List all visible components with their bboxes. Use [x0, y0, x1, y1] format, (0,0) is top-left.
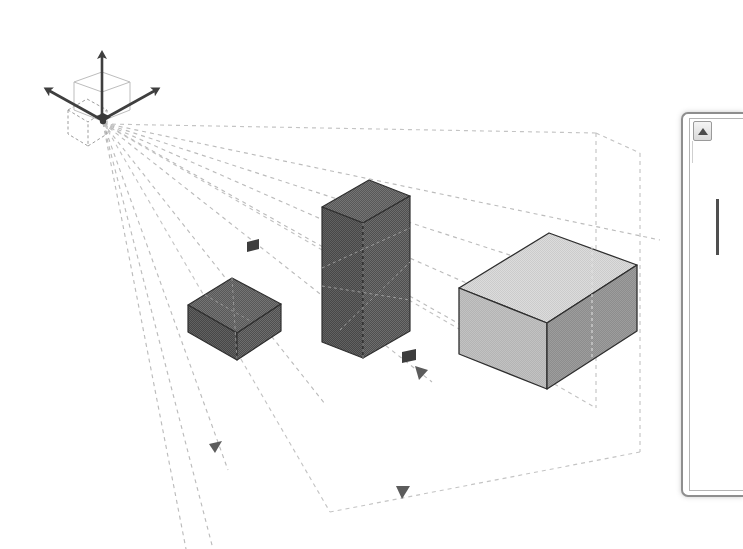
ray-6: [103, 123, 470, 330]
scene-vector-graphic: [0, 0, 743, 549]
triangle-up-icon: [698, 128, 708, 135]
box-medium: [322, 180, 410, 358]
scrollbar-track[interactable]: [692, 141, 712, 163]
projected-point-b: [402, 349, 416, 363]
projected-point-a: [247, 239, 259, 252]
box-large: [459, 233, 637, 389]
scroll-up-button[interactable]: Scroll up: [693, 121, 712, 141]
gizmo-arrow-right: [102, 90, 156, 120]
window-fragment: Scroll up: [681, 112, 743, 497]
ray-7: [103, 123, 505, 300]
panel-divider: [716, 199, 719, 255]
ray-4: [103, 123, 325, 404]
illustration-canvas: Perspective projection of three boxes fr…: [0, 0, 743, 549]
axis-gizmo: [48, 55, 156, 146]
ray-arrowhead-c: [396, 486, 410, 499]
box-small: [188, 278, 281, 360]
window-fragment-inner: Scroll up: [689, 118, 743, 491]
gizmo-arrow-left: [48, 90, 102, 120]
ray-1: [103, 123, 186, 549]
